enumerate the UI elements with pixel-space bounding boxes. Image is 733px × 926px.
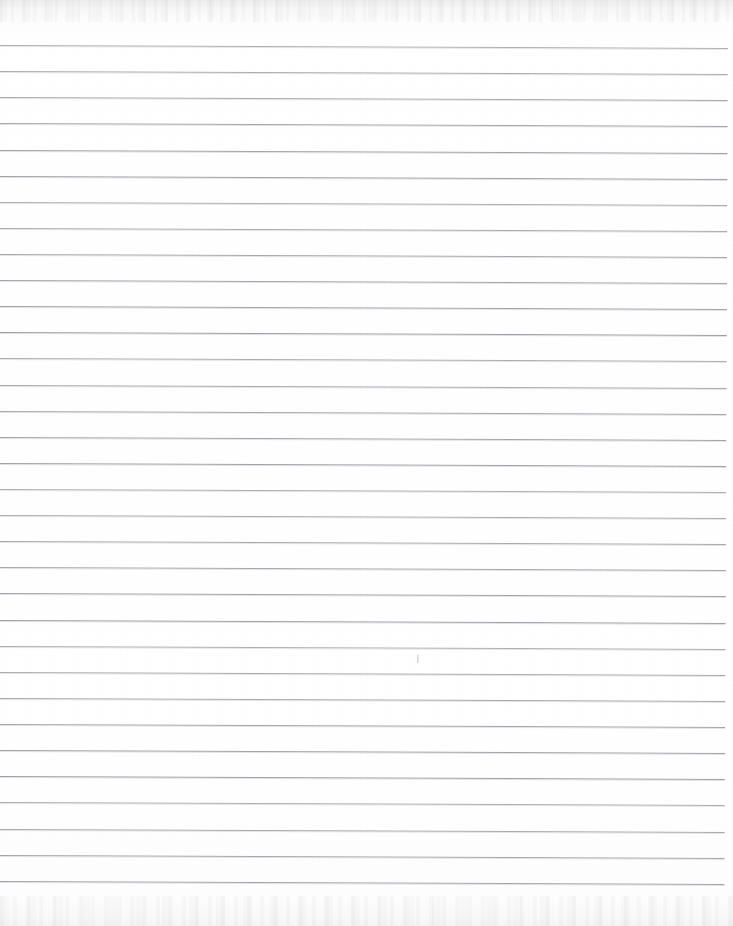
ruled-line [0, 802, 725, 806]
ruled-line [0, 829, 725, 833]
ruled-line [0, 672, 725, 676]
ruled-line [0, 306, 727, 310]
ruled-line [0, 567, 726, 571]
ruled-line [0, 750, 725, 754]
ruled-line [0, 776, 725, 780]
ruled-line [0, 358, 727, 362]
ruled-line [0, 385, 726, 389]
ruled-line [0, 228, 727, 232]
ruled-line [0, 280, 727, 284]
ruled-line [0, 332, 727, 336]
ruled-line [0, 724, 725, 728]
ruled-line [0, 463, 726, 467]
ruled-line [0, 437, 726, 441]
ruled-line [0, 541, 726, 545]
ruled-line [0, 855, 725, 859]
ruled-line [0, 254, 727, 258]
scan-noise-band-bottom [0, 896, 733, 926]
ruled-line [0, 150, 727, 154]
ruled-line [0, 515, 726, 519]
ruled-line [0, 698, 725, 702]
ruled-line [0, 411, 726, 415]
ruled-line-layer [0, 0, 733, 926]
ruled-line [0, 71, 728, 75]
ruled-line [0, 45, 728, 49]
ruled-line [0, 97, 728, 101]
ruled-line [0, 593, 726, 597]
ruled-line [0, 176, 727, 180]
ruled-line [0, 489, 726, 493]
ruled-line [0, 881, 724, 885]
ruled-line [0, 123, 728, 127]
ruled-line [0, 620, 726, 624]
ruled-line [0, 646, 725, 650]
scanned-page [0, 0, 733, 926]
ruled-line [0, 202, 727, 206]
pencil-tick [417, 655, 418, 663]
